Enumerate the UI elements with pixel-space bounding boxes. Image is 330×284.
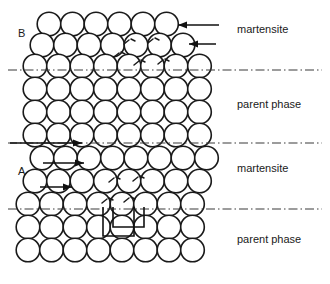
atom-circle	[23, 100, 47, 124]
row-a-1	[30, 146, 218, 170]
atom-circle	[124, 33, 148, 57]
row-a-2	[23, 169, 211, 193]
atom-circle	[63, 215, 87, 239]
atom-circle	[117, 100, 141, 124]
atom-circle	[181, 238, 205, 262]
atom-circle	[181, 192, 205, 216]
atom-circle	[155, 12, 179, 36]
atom-circle	[108, 12, 132, 36]
region-label-a: A	[18, 165, 26, 177]
atom-circle	[16, 215, 40, 239]
phase-label-martensite: martensite	[237, 162, 288, 174]
atom-lattice	[16, 12, 218, 262]
atom-circle	[84, 12, 108, 36]
atom-circle	[61, 12, 85, 36]
atom-circle	[70, 54, 94, 78]
atom-circle	[157, 215, 181, 239]
atom-circle	[40, 215, 64, 239]
martensite-lattice-figure: BAmartensiteparent phasemartensiteparent…	[0, 0, 330, 284]
atom-circle	[37, 12, 61, 36]
atom-circle	[40, 238, 64, 262]
atom-circle	[16, 238, 40, 262]
atom-circle	[47, 77, 71, 101]
atom-circle	[16, 192, 40, 216]
atom-circle	[54, 146, 78, 170]
atom-circle	[77, 146, 101, 170]
lattice-canvas: BAmartensiteparent phasemartensiteparent…	[0, 0, 330, 284]
atom-circle	[141, 100, 165, 124]
atom-circle	[141, 169, 165, 193]
atom-circle	[124, 146, 148, 170]
atom-circle	[117, 77, 141, 101]
atom-circle	[47, 169, 71, 193]
atom-circle	[148, 33, 172, 57]
atom-circle	[188, 100, 212, 124]
atom-circle	[70, 169, 94, 193]
atom-circle	[164, 100, 188, 124]
atom-circle	[131, 12, 155, 36]
atom-circle	[164, 54, 188, 78]
row-p1-1	[23, 77, 211, 101]
atom-circle	[87, 238, 111, 262]
atom-circle	[77, 33, 101, 57]
atom-circle	[181, 215, 205, 239]
atom-circle	[188, 77, 212, 101]
atom-circle	[171, 146, 195, 170]
shear-arrow-b-1-head	[178, 21, 187, 28]
phase-label-parent-phase: parent phase	[237, 233, 301, 245]
atom-circle	[141, 54, 165, 78]
atom-circle	[70, 77, 94, 101]
row-b-1	[37, 12, 178, 36]
atom-circle	[87, 192, 111, 216]
atom-circle	[101, 33, 125, 57]
atom-circle	[30, 146, 54, 170]
region-letters: BA	[18, 27, 26, 177]
atom-circle	[164, 169, 188, 193]
phase-label-parent-phase: parent phase	[237, 98, 301, 110]
row-p2-2	[16, 238, 204, 262]
atom-circle	[23, 54, 47, 78]
atom-circle	[148, 146, 172, 170]
atom-circle	[40, 192, 64, 216]
atom-circle	[47, 54, 71, 78]
atom-circle	[195, 146, 219, 170]
atom-circle	[63, 192, 87, 216]
shear-arrow-b-1	[178, 21, 219, 28]
atom-circle	[157, 238, 181, 262]
atom-circle	[188, 54, 212, 78]
atom-circle	[94, 54, 118, 78]
atom-circle	[23, 169, 47, 193]
atom-circle	[157, 192, 181, 216]
atom-circle	[94, 169, 118, 193]
atom-circle	[54, 33, 78, 57]
atom-circle	[30, 33, 54, 57]
row-a-3	[16, 192, 204, 216]
phase-labels: martensiteparent phasemartensiteparent p…	[237, 23, 301, 245]
atom-circle	[94, 77, 118, 101]
atom-circle	[134, 238, 158, 262]
atom-circle	[188, 169, 212, 193]
row-p1-2	[23, 100, 211, 124]
atom-circle	[63, 238, 87, 262]
atom-circle	[164, 77, 188, 101]
region-label-b: B	[18, 27, 25, 39]
atom-circle	[101, 146, 125, 170]
atom-circle	[47, 100, 71, 124]
atom-circle	[23, 77, 47, 101]
atom-circle	[117, 54, 141, 78]
atom-circle	[117, 169, 141, 193]
atom-circle	[141, 77, 165, 101]
atom-circle	[171, 33, 195, 57]
phase-label-martensite: martensite	[237, 23, 288, 35]
atom-circle	[94, 100, 118, 124]
atom-circle	[110, 238, 134, 262]
atom-circle	[70, 100, 94, 124]
atom-circle	[134, 192, 158, 216]
row-b-2	[30, 33, 195, 57]
row-b-3	[23, 54, 211, 78]
